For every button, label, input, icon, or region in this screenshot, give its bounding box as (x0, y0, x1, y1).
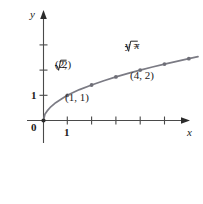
marker-point-2 (90, 83, 94, 87)
marker-point-6 (187, 57, 191, 61)
plot-canvas (0, 0, 203, 204)
point-label-suffix: ) (67, 59, 71, 70)
curve-equation-label: y = x (125, 40, 139, 51)
x-tick-label-1: 1 (64, 127, 70, 138)
y-axis-arrowhead (40, 10, 47, 19)
x-axis-arrowhead (181, 117, 190, 124)
point-label-1-1: (1, 1) (65, 92, 89, 103)
x-axis-label: x (187, 127, 192, 138)
origin-label: 0 (31, 122, 37, 133)
radical-sign-icon-2 (55, 59, 63, 71)
point-label-2-sqrt2: (2, 2) (55, 59, 71, 70)
marker-point-5 (163, 62, 167, 66)
radical-sign-icon (125, 40, 133, 52)
origin-marker (41, 118, 45, 122)
y-tick-label-1: 1 (31, 90, 37, 101)
graph-figure: y x 0 1 1 y = x (2, 2) (1, 1) (4, 2) (0, 0, 203, 204)
point-label-4-2: (4, 2) (130, 70, 154, 81)
y-axis-label: y (30, 9, 35, 20)
marker-point-3 (114, 75, 118, 79)
